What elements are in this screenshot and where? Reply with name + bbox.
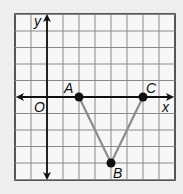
point-a-label: A	[63, 80, 73, 96]
point-a	[75, 93, 84, 102]
origin-label: O	[34, 99, 45, 115]
point-c-label: C	[146, 80, 157, 96]
point-b-label: B	[113, 165, 122, 181]
x-axis-label: x	[161, 99, 170, 115]
y-axis-label: y	[33, 13, 42, 29]
coordinate-plane: y x O A B C	[0, 0, 183, 194]
